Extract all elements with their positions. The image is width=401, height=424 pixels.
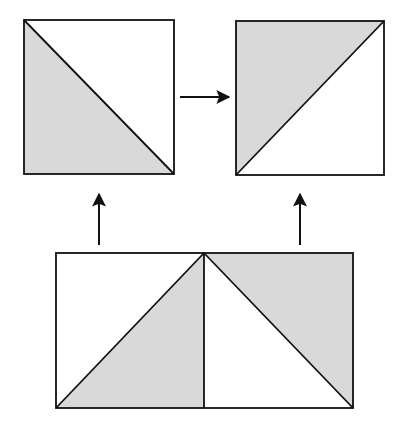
bottom-rectangle (56, 253, 353, 408)
top-right-square (236, 21, 384, 175)
dissection-diagram (0, 0, 401, 424)
top-left-square (24, 20, 174, 174)
